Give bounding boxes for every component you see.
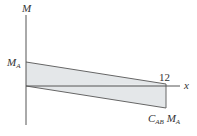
x-axis-label: x [184, 80, 189, 91]
y-axis-label: M [22, 3, 31, 14]
carryover-moment-label: CAB MA [148, 113, 180, 126]
x-end-tick-label: 12 [159, 72, 170, 83]
left-moment-label: MA [7, 57, 20, 70]
